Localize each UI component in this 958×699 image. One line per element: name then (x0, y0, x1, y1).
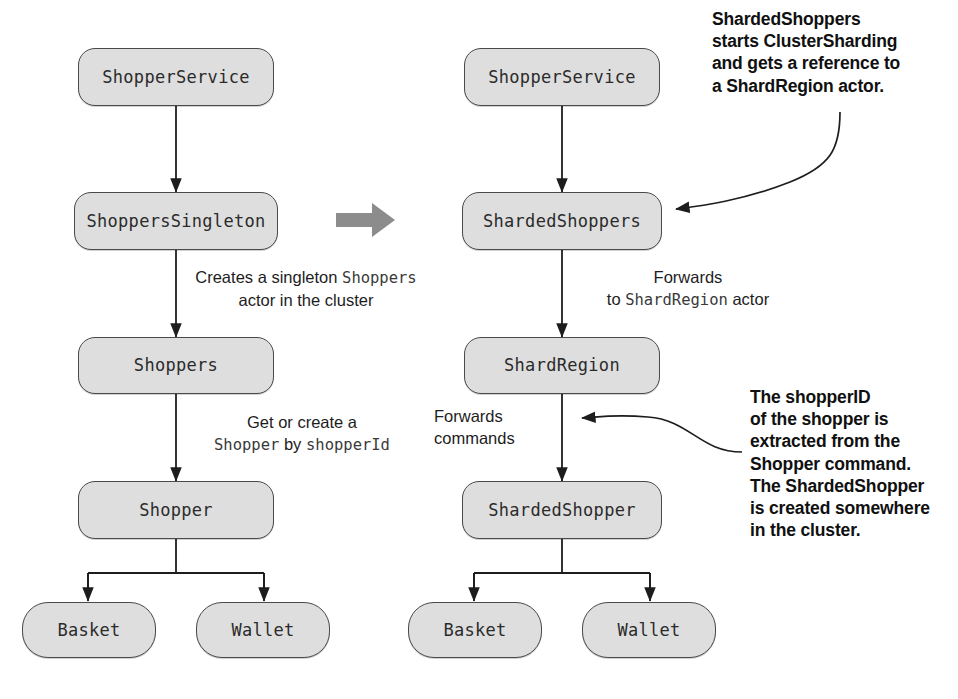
node-label: ShardedShopper (488, 502, 636, 519)
node-wallet-singleton[interactable]: Wallet (196, 602, 330, 658)
callout-line: The ShardedShopper (750, 475, 958, 497)
edge-label-line-2: actor in the cluster (186, 289, 426, 311)
callout-line: and gets a reference to (712, 52, 958, 74)
node-label: ShardedShoppers (483, 213, 641, 230)
node-label: Wallet (617, 622, 680, 639)
edge-label-line-2: Shopper by shopperId (186, 433, 418, 456)
edge-label-line-1: Creates a singleton Shoppers (186, 266, 426, 289)
callout-line: a ShardRegion actor. (712, 75, 958, 97)
node-label: Basket (443, 622, 506, 639)
node-label: Shopper (139, 502, 213, 519)
node-label: ShopperService (488, 69, 636, 86)
node-shoppers[interactable]: Shoppers (78, 337, 274, 394)
node-wallet-sharded[interactable]: Wallet (582, 602, 716, 658)
edge-label-creates-singleton: Creates a singleton Shoppers actor in th… (186, 266, 426, 311)
node-basket-sharded[interactable]: Basket (408, 602, 542, 658)
callout-leader-shopper-id (582, 416, 742, 452)
callout-shopper-id: The shopperID of the shopper is extracte… (750, 386, 958, 542)
node-label: ShopperService (102, 69, 250, 86)
right-block-arrow-icon (334, 200, 398, 240)
callout-sharded-shoppers: ShardedShoppers starts ClusterSharding a… (712, 8, 958, 97)
actor-hierarchy-diagram: ShopperService ShoppersSingleton Shopper… (0, 0, 958, 699)
code-token-shopper: Shopper (214, 436, 279, 454)
code-token-shoppers: Shoppers (342, 269, 417, 287)
node-shard-region[interactable]: ShardRegion (464, 337, 660, 394)
edge-label-line-1: Forwards (572, 266, 804, 288)
edge-label-forwards-to-shardregion: Forwards to ShardRegion actor (572, 266, 804, 311)
callout-leader-sharded-shoppers (676, 112, 840, 209)
node-shopper-service-singleton[interactable]: ShopperService (78, 48, 274, 106)
callout-line: of the shopper is (750, 408, 958, 430)
edge-label-line-1: Forwards (434, 405, 554, 427)
edge-label-line-2: commands (434, 427, 554, 449)
edge-label-line-2: to ShardRegion actor (572, 288, 804, 311)
callout-line: The shopperID (750, 386, 958, 408)
edge-label-line-1: Get or create a (186, 411, 418, 433)
node-label: ShoppersSingleton (86, 213, 265, 230)
edge-label-get-or-create: Get or create a Shopper by shopperId (186, 411, 418, 456)
callout-line: is created somewhere (750, 497, 958, 519)
node-shoppers-singleton[interactable]: ShoppersSingleton (74, 192, 278, 250)
node-label: Wallet (231, 622, 294, 639)
node-label: Basket (57, 622, 120, 639)
callout-line: extracted from the (750, 430, 958, 452)
node-shopper[interactable]: Shopper (78, 481, 274, 539)
code-token-shardregion: ShardRegion (625, 291, 728, 309)
edge-shardedshopper-to-children-bracket (474, 539, 650, 596)
node-label: Shoppers (134, 357, 218, 374)
node-label: ShardRegion (504, 357, 620, 374)
edge-shopper-to-children-bracket (88, 539, 264, 596)
node-basket-singleton[interactable]: Basket (22, 602, 156, 658)
node-sharded-shoppers[interactable]: ShardedShoppers (462, 192, 662, 250)
callout-line: Shopper command. (750, 453, 958, 475)
edge-label-forwards-commands: Forwards commands (434, 405, 554, 450)
callout-line: ShardedShoppers (712, 8, 958, 30)
node-sharded-shopper[interactable]: ShardedShopper (462, 481, 662, 539)
callout-line: starts ClusterSharding (712, 30, 958, 52)
code-token-shopper-id: shopperId (306, 436, 390, 454)
node-shopper-service-sharded[interactable]: ShopperService (464, 48, 660, 106)
callout-line: in the cluster. (750, 519, 958, 541)
